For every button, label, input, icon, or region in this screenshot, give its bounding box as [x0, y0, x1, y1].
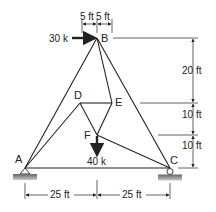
bottom-dimensions	[25, 180, 170, 199]
dim-bottom-right: 25 ft	[122, 190, 141, 200]
member-FC	[97, 135, 170, 168]
truss-diagram	[0, 0, 216, 212]
dim-right-20ft: 20 ft	[182, 66, 201, 76]
node-label-A: A	[15, 154, 22, 165]
load-label-30k: 30 k	[49, 34, 68, 44]
pin-support-A	[13, 168, 37, 180]
dim-top-left: 5 ft	[80, 12, 94, 22]
node-label-F: F	[84, 130, 91, 141]
node-label-D: D	[74, 90, 82, 101]
dim-right-10ft-lower: 10 ft	[182, 141, 201, 151]
node-label-C: C	[170, 155, 178, 166]
dim-right-10ft-upper: 10 ft	[182, 110, 201, 120]
dim-top-right: 5 ft	[96, 12, 110, 22]
node-label-B: B	[101, 33, 108, 44]
member-AD	[25, 103, 80, 168]
member-EF	[97, 103, 112, 135]
roller-support-C	[158, 169, 182, 181]
node-label-E: E	[115, 97, 122, 108]
member-BE	[97, 38, 112, 103]
load-label-40k: 40 k	[87, 157, 106, 167]
dim-bottom-left: 25 ft	[50, 190, 69, 200]
